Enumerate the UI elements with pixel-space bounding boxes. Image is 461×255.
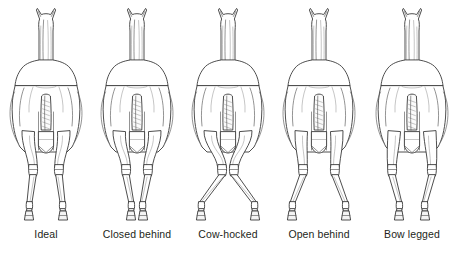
horse-label-ideal: Ideal (34, 228, 57, 240)
horse-panel-open-behind: Open behind (273, 0, 365, 255)
horse-label-closed-behind: Closed behind (103, 228, 171, 240)
horse-diagram-closed-behind (91, 0, 183, 228)
horse-label-bow-legged: Bow legged (384, 228, 440, 240)
horse-label-open-behind: Open behind (288, 228, 349, 240)
horse-conformation-figure: IdealClosed behindCow-hockedOpen behindB… (0, 0, 461, 255)
horse-label-cow-hocked: Cow-hocked (198, 228, 257, 240)
horse-panel-ideal: Ideal (0, 0, 92, 255)
horse-diagram-cow-hocked (182, 0, 274, 228)
horse-panel-bow-legged: Bow legged (366, 0, 458, 255)
horse-diagram-bow-legged (366, 0, 458, 228)
horse-panel-closed-behind: Closed behind (91, 0, 183, 255)
horse-diagram-open-behind (273, 0, 365, 228)
horse-diagram-ideal (0, 0, 92, 228)
horse-panel-cow-hocked: Cow-hocked (182, 0, 274, 255)
